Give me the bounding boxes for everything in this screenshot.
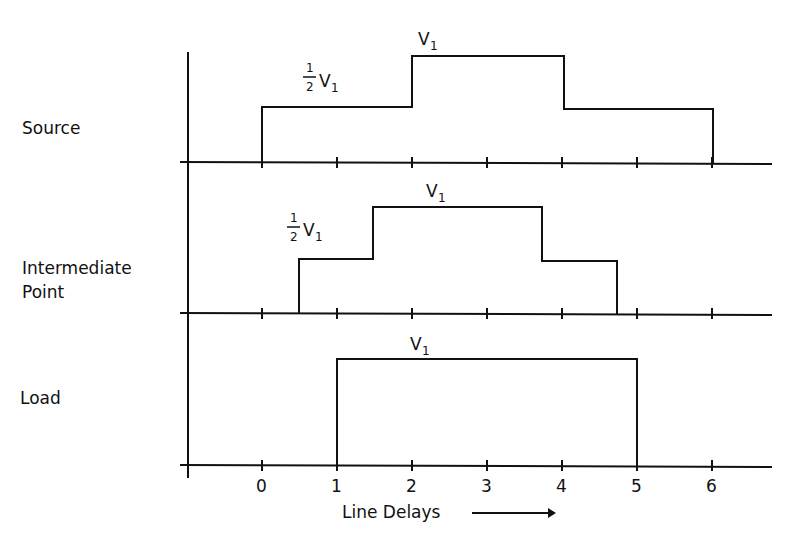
- load-label: Load: [20, 388, 61, 408]
- load-waveform: [337, 359, 637, 467]
- source-v1-subscript: 1: [430, 39, 438, 53]
- tick-label-4: 4: [556, 476, 567, 496]
- intermediate-half-denominator: 2: [290, 230, 298, 244]
- waveform-diagram: Source Intermediate Point Load V 1 1 2 V…: [0, 0, 793, 545]
- load-v1-label: V: [410, 334, 422, 354]
- intermediate-half-v-subscript: 1: [315, 230, 323, 244]
- intermediate-label-line1: Intermediate: [22, 258, 132, 278]
- tick-label-1: 1: [331, 476, 342, 496]
- source-half-denominator: 2: [306, 80, 314, 94]
- x-tick-labels: 0 1 2 3 4 5 6: [256, 476, 717, 496]
- source-half-numerator: 1: [306, 61, 314, 75]
- intermediate-v1-subscript: 1: [438, 191, 446, 205]
- intermediate-v1-label: V: [426, 181, 438, 201]
- source-v1-label: V: [418, 29, 430, 49]
- intermediate-half-numerator: 1: [290, 211, 298, 225]
- intermediate-half-v-label: V: [303, 220, 315, 240]
- tick-label-0: 0: [256, 476, 267, 496]
- source-baseline: [180, 162, 772, 164]
- source-half-v-subscript: 1: [331, 81, 339, 95]
- source-label: Source: [22, 118, 80, 138]
- source-half-v-label: V: [319, 71, 331, 91]
- x-axis-label: Line Delays: [342, 502, 441, 522]
- tick-label-2: 2: [406, 476, 417, 496]
- intermediate-baseline: [180, 313, 772, 315]
- tick-label-3: 3: [481, 476, 492, 496]
- intermediate-waveform: [299, 207, 617, 315]
- tick-label-6: 6: [706, 476, 717, 496]
- tick-label-5: 5: [631, 476, 642, 496]
- arrow-icon: [548, 508, 556, 518]
- load-v1-subscript: 1: [422, 344, 430, 358]
- intermediate-label-line2: Point: [22, 282, 65, 302]
- load-baseline: [180, 465, 772, 467]
